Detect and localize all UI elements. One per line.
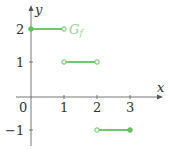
x-axis-arrow-icon bbox=[157, 95, 163, 100]
x-tick-label-2: 2 bbox=[93, 100, 101, 115]
endpoints bbox=[29, 27, 133, 133]
y-tick-label-2: 2 bbox=[16, 22, 24, 37]
y-axis-arrow-icon bbox=[29, 5, 34, 11]
closed-point-0-2 bbox=[29, 27, 34, 32]
axes bbox=[16, 5, 163, 146]
open-point-2-m1 bbox=[95, 128, 99, 132]
graph-label-sub: f bbox=[78, 28, 84, 38]
y-tick-label-1: 1 bbox=[16, 55, 24, 70]
open-point-2-1 bbox=[95, 60, 99, 64]
x-axis-label: x bbox=[157, 80, 165, 95]
graph-label-main: G bbox=[69, 22, 79, 37]
x-tick-label-3: 3 bbox=[126, 100, 134, 115]
graph-gf bbox=[31, 29, 130, 130]
open-point-1-2 bbox=[62, 27, 66, 31]
origin-label: 0 bbox=[19, 100, 27, 115]
open-point-1-1 bbox=[62, 60, 66, 64]
step-function-chart: y x 0 1 2 3 2 1 −1 Gf bbox=[0, 0, 173, 150]
closed-point-3-m1 bbox=[128, 128, 133, 133]
x-tick-label-1: 1 bbox=[60, 100, 68, 115]
y-axis-label: y bbox=[34, 2, 43, 17]
graph-label: Gf bbox=[69, 22, 84, 38]
y-tick-label-m1: −1 bbox=[5, 123, 24, 138]
